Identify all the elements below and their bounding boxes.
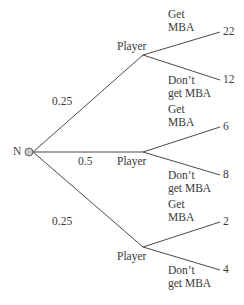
payoff-label: 8 bbox=[223, 168, 229, 181]
chance-edge bbox=[33, 55, 143, 152]
payoff-label: 12 bbox=[223, 73, 235, 86]
probability-label: 0.25 bbox=[52, 215, 72, 228]
action-label: Get MBA bbox=[168, 198, 194, 224]
payoff-label: 6 bbox=[223, 120, 229, 133]
player-node-label: Player bbox=[117, 250, 146, 263]
action-label: Don’t get MBA bbox=[168, 264, 211, 290]
action-edge bbox=[143, 222, 220, 247]
payoff-label: 2 bbox=[223, 215, 229, 228]
payoff-label: 22 bbox=[223, 25, 235, 38]
action-label: Get MBA bbox=[168, 103, 194, 129]
player-node-label: Player bbox=[117, 155, 146, 168]
probability-label: 0.5 bbox=[78, 155, 92, 168]
action-label: Don’t get MBA bbox=[168, 74, 211, 100]
probability-label: 0.25 bbox=[52, 95, 72, 108]
nature-node-icon bbox=[25, 148, 33, 156]
action-edge bbox=[143, 32, 220, 55]
player-node-label: Player bbox=[117, 40, 146, 53]
action-label: Get MBA bbox=[168, 8, 194, 34]
action-edge bbox=[143, 127, 220, 152]
action-label: Don’t get MBA bbox=[168, 169, 211, 195]
nature-node-label: N bbox=[13, 145, 21, 158]
payoff-label: 4 bbox=[223, 263, 229, 276]
